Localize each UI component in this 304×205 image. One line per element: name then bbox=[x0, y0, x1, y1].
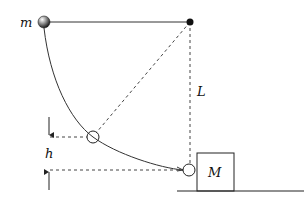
label-m: m bbox=[20, 15, 32, 30]
label-h: h bbox=[45, 146, 53, 161]
ball-m bbox=[38, 16, 50, 28]
label-L: L bbox=[196, 84, 206, 99]
ball-bottom-position bbox=[183, 164, 195, 176]
pendulum-diagram: m L h M bbox=[0, 0, 304, 205]
pivot-point bbox=[187, 19, 194, 26]
swing-arc bbox=[44, 28, 183, 170]
diagonal-dashed-line bbox=[96, 22, 190, 133]
label-M: M bbox=[207, 165, 222, 180]
